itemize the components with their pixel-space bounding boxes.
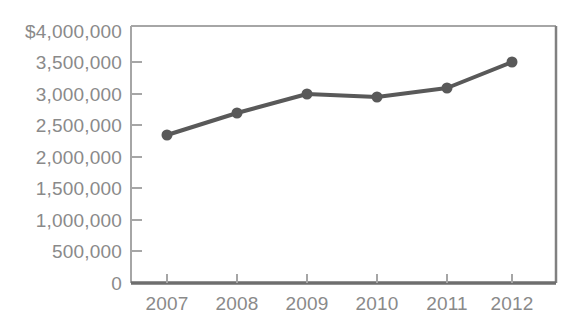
data-point-markers [162,57,518,141]
y-axis-ticks [131,62,142,251]
data-point-marker [372,92,383,103]
data-point-marker [442,83,453,94]
data-point-marker [302,89,313,100]
plot-frame [131,26,556,283]
plot-area [0,0,567,333]
data-series-line [167,62,512,135]
data-point-marker [232,108,243,119]
data-point-marker [162,130,173,141]
data-point-marker [507,57,518,68]
line-chart: $4,000,000 3,500,000 3,000,000 2,500,000… [0,0,567,333]
